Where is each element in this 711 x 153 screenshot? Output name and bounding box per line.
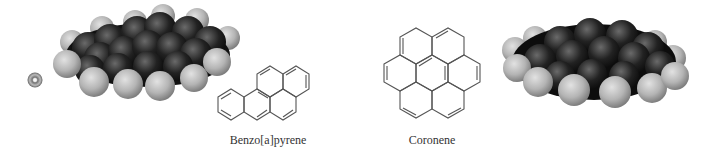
small-atom-icon: [28, 73, 43, 88]
coronene-label: Coronene: [409, 133, 456, 147]
benzo-a-pyrene-structure: [218, 66, 309, 120]
benzo-a-pyrene-space-filling-model: [53, 4, 240, 101]
coronene-space-filling-model: [502, 18, 689, 108]
coronene-structure: [384, 28, 480, 118]
figure-canvas: Benzo[a]pyrene Coronene: [0, 0, 711, 153]
benzo-a-pyrene-label: Benzo[a]pyrene: [230, 133, 307, 147]
